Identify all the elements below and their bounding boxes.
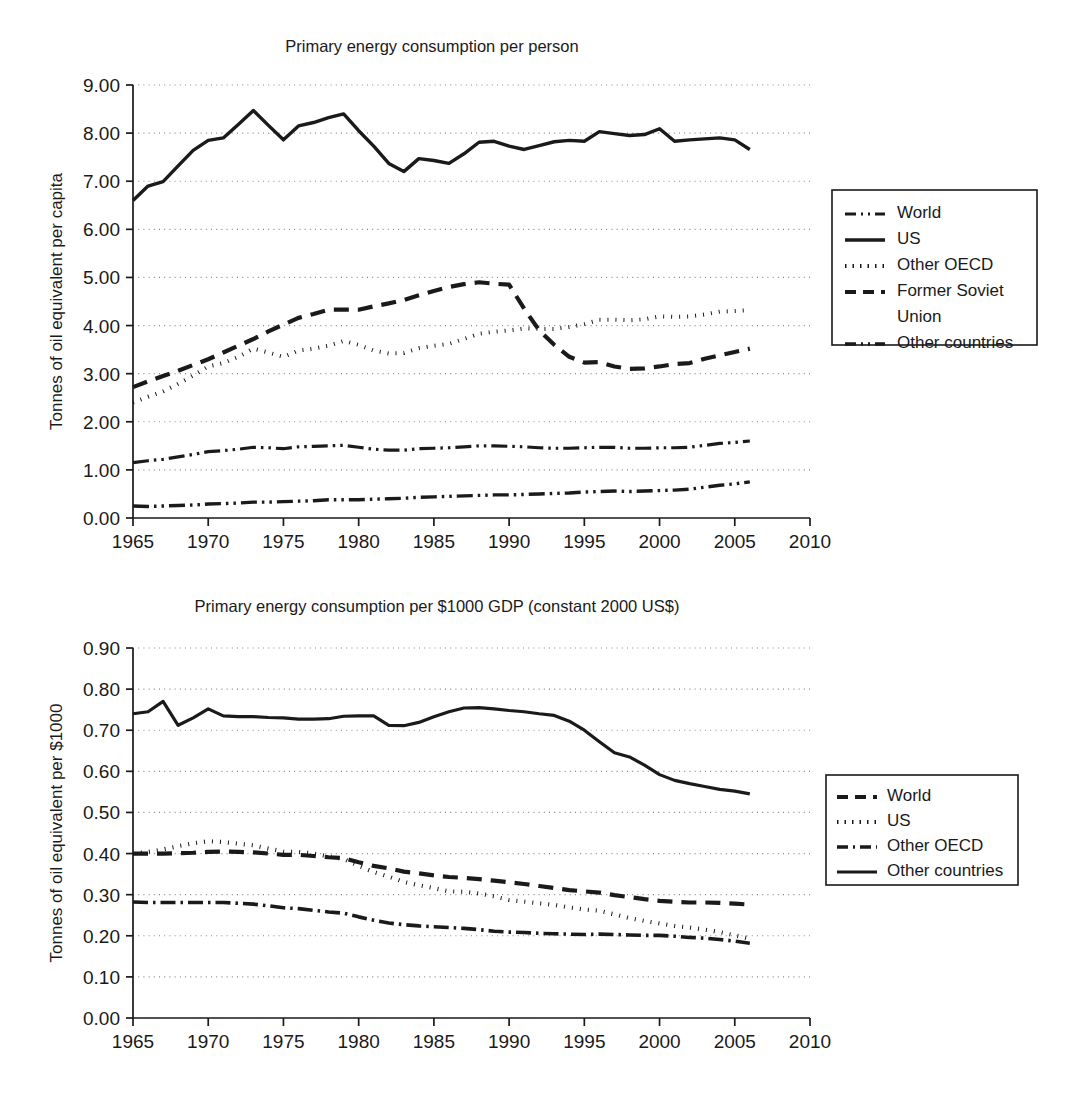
series-line [133, 282, 750, 387]
y-tick-label: 0.30 [83, 885, 120, 906]
x-tick-label: 2010 [789, 1031, 831, 1052]
y-tick-label: 0.40 [83, 844, 120, 865]
y-tick-label: 0.10 [83, 967, 120, 988]
chart-title: Primary energy consumption per $1000 GDP… [195, 597, 680, 615]
axis-lines [133, 648, 810, 1018]
x-tick-label: 1985 [413, 1031, 455, 1052]
legend-label[interactable]: Other countries [897, 333, 1013, 352]
x-tick-label: 1990 [488, 531, 530, 552]
x-tick-label: 1970 [187, 1031, 229, 1052]
legend-label-continued[interactable]: Union [897, 307, 941, 326]
x-tick-label: 1970 [187, 531, 229, 552]
series-line [133, 310, 750, 402]
y-tick-label: 4.00 [83, 316, 120, 337]
x-tick-label: 1990 [488, 1031, 530, 1052]
y-tick-label: 3.00 [83, 364, 120, 385]
legend-label[interactable]: Other OECD [897, 255, 993, 274]
y-tick-label: 8.00 [83, 123, 120, 144]
x-tick-label: 1965 [112, 1031, 154, 1052]
x-tick-label: 1980 [338, 531, 380, 552]
x-tick-label: 2005 [714, 531, 756, 552]
legend-label[interactable]: US [897, 229, 921, 248]
x-tick-label: 1995 [563, 1031, 605, 1052]
y-tick-label: 6.00 [83, 219, 120, 240]
y-tick-label: 2.00 [83, 412, 120, 433]
y-tick-label: 1.00 [83, 460, 120, 481]
y-tick-label: 9.00 [83, 75, 120, 96]
x-tick-label: 2000 [638, 1031, 680, 1052]
y-tick-label: 7.00 [83, 171, 120, 192]
x-tick-label: 2005 [714, 1031, 756, 1052]
series-line [133, 441, 750, 463]
chart-per-1000-gdp-canvas: Primary energy consumption per $1000 GDP… [0, 575, 1070, 1093]
y-tick-label: 0.90 [83, 638, 120, 659]
y-axis-title: Tonnes of oil equivalent per $1000 [47, 704, 66, 963]
y-tick-label: 0.80 [83, 679, 120, 700]
series-line [133, 841, 750, 938]
x-tick-label: 1995 [563, 531, 605, 552]
legend-label[interactable]: World [887, 786, 931, 805]
x-tick-label: 1975 [262, 531, 304, 552]
y-tick-label: 0.00 [83, 1008, 120, 1029]
series-line [133, 902, 750, 943]
series-line [133, 701, 750, 794]
legend-label[interactable]: Former Soviet [897, 281, 1004, 300]
series-line [133, 482, 750, 507]
chart-per-1000-gdp: Primary energy consumption per $1000 GDP… [0, 575, 1070, 1093]
chart-per-person-canvas: Primary energy consumption per personTon… [0, 0, 1070, 570]
y-tick-label: 0.00 [83, 508, 120, 529]
x-tick-label: 1965 [112, 531, 154, 552]
x-tick-label: 1975 [262, 1031, 304, 1052]
y-tick-label: 0.20 [83, 926, 120, 947]
legend-label[interactable]: World [897, 203, 941, 222]
y-tick-label: 5.00 [83, 267, 120, 288]
legend-label[interactable]: US [887, 811, 911, 830]
x-tick-label: 1980 [338, 1031, 380, 1052]
series-line [133, 111, 750, 201]
y-tick-label: 0.50 [83, 802, 120, 823]
legend-label[interactable]: Other OECD [887, 836, 983, 855]
legend-label[interactable]: Other countries [887, 861, 1003, 880]
y-tick-label: 0.60 [83, 761, 120, 782]
chart-title: Primary energy consumption per person [285, 37, 578, 55]
chart-per-person: Primary energy consumption per personTon… [0, 0, 1070, 570]
y-axis-title: Tonnes of oil equivalent per capita [47, 172, 66, 430]
y-tick-label: 0.70 [83, 720, 120, 741]
x-tick-label: 2010 [789, 531, 831, 552]
x-tick-label: 1985 [413, 531, 455, 552]
series-line [133, 852, 750, 905]
x-tick-label: 2000 [638, 531, 680, 552]
